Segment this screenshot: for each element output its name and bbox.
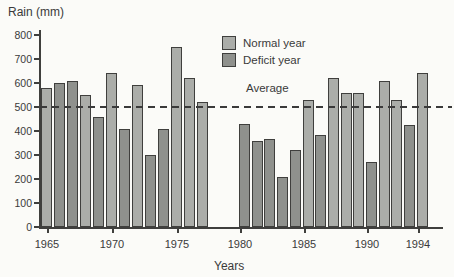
bar-1988 [341, 93, 352, 227]
legend-label: Normal year [243, 37, 306, 49]
x-tick-1990 [367, 229, 369, 233]
x-tick-label-1975: 1975 [160, 238, 194, 250]
x-tick-1985 [304, 229, 306, 233]
y-tick-600 [34, 82, 39, 84]
y-tick-label-0: 0 [2, 222, 32, 232]
x-tick-label-1985: 1985 [287, 238, 321, 250]
legend-item-deficit-year: Deficit year [222, 53, 306, 66]
legend: Normal year Deficit year [222, 36, 306, 70]
x-tick-1970 [112, 229, 114, 233]
bar-1984 [290, 150, 301, 227]
bar-1966 [54, 83, 65, 227]
bar-1991 [379, 81, 390, 227]
y-tick-700 [34, 58, 39, 60]
y-tick-300 [34, 154, 39, 156]
x-tick-label-1994: 1994 [401, 238, 435, 250]
y-tick-label-700: 700 [2, 54, 32, 64]
y-tick-label-100: 100 [2, 198, 32, 208]
bar-1993 [404, 125, 415, 227]
x-tick-1994 [418, 229, 420, 233]
x-tick-1975 [177, 229, 179, 233]
bar-1994 [417, 73, 428, 227]
x-tick-1980 [240, 229, 242, 233]
normal-year-swatch [222, 36, 236, 50]
average-line-label: Average [246, 82, 289, 94]
bar-1974 [158, 129, 169, 227]
bar-1980 [239, 124, 250, 227]
bar-1983 [277, 177, 288, 227]
x-tick-label-1980: 1980 [223, 238, 257, 250]
bar-1990 [366, 162, 377, 227]
bar-1985 [303, 100, 314, 227]
y-tick-label-600: 600 [2, 78, 32, 88]
y-tick-200 [34, 178, 39, 180]
y-tick-label-200: 200 [2, 174, 32, 184]
bar-1992 [391, 100, 402, 227]
legend-label: Deficit year [243, 54, 301, 66]
bar-1967 [67, 81, 78, 227]
bar-1982 [264, 139, 275, 227]
y-tick-label-400: 400 [2, 126, 32, 136]
deficit-year-swatch [222, 53, 236, 67]
y-tick-500 [34, 106, 39, 108]
x-axis-title: Years [214, 259, 244, 273]
rainfall-bar-chart: Rain (mm) Years Average Normal year Defi… [0, 0, 454, 277]
bar-1989 [353, 93, 364, 227]
legend-item-normal-year: Normal year [222, 36, 306, 49]
y-tick-400 [34, 130, 39, 132]
bar-1973 [145, 155, 156, 227]
y-axis-title: Rain (mm) [8, 5, 64, 19]
bar-1987 [328, 78, 339, 227]
y-tick-label-300: 300 [2, 150, 32, 160]
y-tick-100 [34, 202, 39, 204]
bar-1975 [171, 47, 182, 227]
x-tick-label-1990: 1990 [350, 238, 384, 250]
y-tick-label-800: 800 [2, 30, 32, 40]
bar-1971 [119, 129, 130, 227]
bar-1981 [252, 141, 263, 227]
y-tick-label-500: 500 [2, 102, 32, 112]
y-tick-0 [34, 226, 39, 228]
x-tick-label-1970: 1970 [95, 238, 129, 250]
bar-1970 [106, 73, 117, 227]
bar-1969 [93, 117, 104, 227]
bar-1977 [197, 102, 208, 227]
average-dashed-line [40, 106, 452, 108]
bar-1976 [184, 78, 195, 227]
x-tick-label-1965: 1965 [30, 238, 64, 250]
bar-1986 [315, 135, 326, 227]
x-tick-1965 [47, 229, 49, 233]
y-tick-800 [34, 34, 39, 36]
bar-1968 [80, 95, 91, 227]
bar-1965 [41, 88, 52, 227]
